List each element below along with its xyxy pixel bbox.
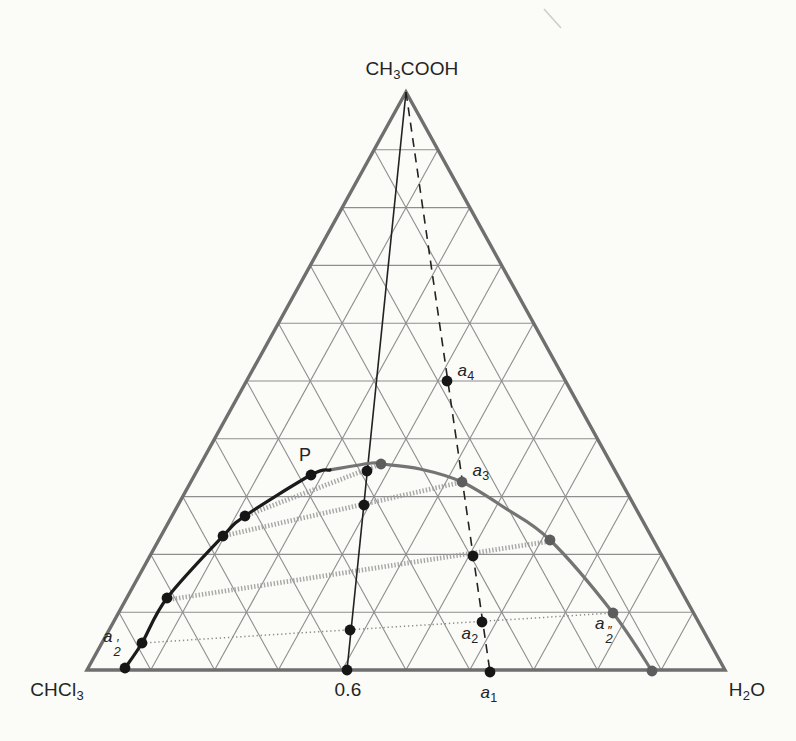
grid-line (406, 381, 566, 670)
a1-base: a (481, 683, 491, 702)
grid-line (661, 612, 693, 670)
point-label-a1: a1 (481, 683, 498, 705)
point-label-a2-prime: a′2 (103, 627, 121, 656)
a2-base: a (462, 624, 472, 643)
left-label-sub: 3 (76, 688, 83, 703)
grid-line (278, 265, 501, 670)
plait-point-label: P (299, 445, 311, 466)
apex-label-acetic-acid: CH3COOH (365, 58, 458, 83)
base-tick-text: 0.6 (334, 679, 361, 700)
grid-line (247, 381, 407, 670)
left-corner-label-chloroform: CHCl3 (30, 679, 84, 704)
a2-prime-sub: 2 (114, 648, 121, 656)
right-label-text: H (729, 679, 743, 700)
a2-prime-base: a (103, 627, 113, 646)
a2-dprime-base: a (595, 614, 605, 633)
apex-label-text: CH (365, 58, 393, 79)
point-label-a3: a3 (473, 461, 490, 483)
grid-line (534, 497, 630, 670)
right-corner-label-water: H2O (729, 679, 765, 704)
dot-gray (545, 535, 556, 546)
point-dot-a1 (485, 667, 496, 678)
a4-base: a (458, 361, 468, 380)
a4-sub: 4 (467, 369, 474, 383)
binodal-left-branch (125, 470, 330, 668)
base-tick-label: 0.6 (334, 679, 361, 701)
scan-artifact (544, 9, 561, 28)
point-dot-a4 (442, 376, 453, 387)
dot-gray (647, 666, 658, 677)
point-dot-P (306, 470, 317, 481)
grid-line (151, 150, 438, 670)
point-dot-a2_prime (137, 638, 148, 649)
dot-black (359, 500, 370, 511)
dot-black (240, 511, 251, 522)
grid-line (374, 150, 661, 670)
point-dot-a3 (457, 477, 468, 488)
ternary-phase-diagram-figure: CH3COOH CHCl3 H2O P 0.6 a1 a2 a3 a4 a′2 … (0, 0, 796, 741)
point-label-a2-double-prime: a″2 (595, 614, 613, 643)
dot-black (468, 551, 479, 562)
dot-black (362, 466, 373, 477)
dot-black (345, 625, 356, 636)
dot-black (120, 663, 131, 674)
a3-base: a (473, 461, 483, 480)
point-label-a2: a2 (462, 624, 479, 646)
plait-point-text: P (299, 445, 311, 465)
dot-black (218, 531, 229, 542)
a2-sub: 2 (471, 632, 478, 646)
tie-line-hatched (223, 482, 462, 536)
dot-gray (376, 459, 387, 470)
a1-sub: 1 (490, 691, 497, 705)
a2-dprime-sub: 2 (606, 635, 613, 643)
point-label-a4: a4 (458, 361, 475, 383)
dot-black (342, 665, 353, 676)
dot-black (162, 593, 173, 604)
apex-label-text2: COOH (401, 58, 459, 79)
right-label-text2: O (750, 679, 765, 700)
left-label-text: CHCl (30, 679, 76, 700)
a3-sub: 3 (482, 469, 489, 483)
